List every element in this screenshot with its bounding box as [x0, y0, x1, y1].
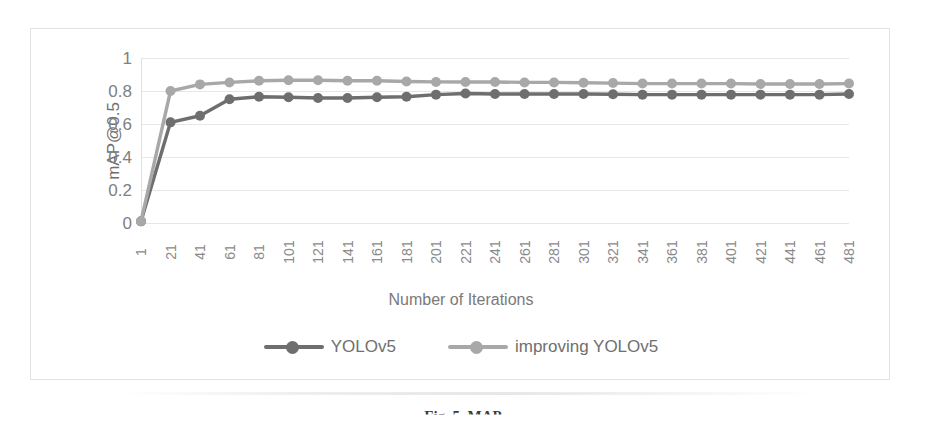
x-axis-title: Number of Iterations [31, 291, 891, 309]
figure-caption: Fig. 5. MAP [0, 408, 926, 429]
x-axis-tick-label: 21 [162, 227, 180, 287]
data-point-marker [520, 89, 530, 99]
x-axis-tick-label: 321 [604, 227, 622, 287]
data-point-marker [313, 75, 323, 85]
series-yolov5 [136, 88, 854, 226]
data-point-marker [225, 94, 235, 104]
y-axis-tick-label: 0.6 [108, 116, 132, 133]
y-axis-tick-label: 0.2 [108, 182, 132, 199]
data-point-marker [520, 77, 530, 87]
data-point-marker [284, 75, 294, 85]
gridline [141, 223, 849, 224]
x-axis-tick-label: 281 [545, 227, 563, 287]
x-axis-tick-label: 241 [486, 227, 504, 287]
chart-legend: YOLOv5improving YOLOv5 [31, 337, 891, 357]
data-point-marker [549, 89, 559, 99]
chart-canvas: mAP@0.5 00.20.40.60.81 12141618110112114… [31, 29, 891, 381]
x-axis-tick-label: 341 [634, 227, 652, 287]
legend-label: YOLOv5 [331, 337, 396, 357]
data-point-marker [815, 79, 825, 89]
chart-frame: mAP@0.5 00.20.40.60.81 12141618110112114… [30, 28, 890, 380]
legend-item[interactable]: improving YOLOv5 [448, 337, 658, 357]
x-axis-tick-label: 81 [250, 227, 268, 287]
data-point-marker [726, 90, 736, 100]
data-point-marker [756, 90, 766, 100]
figure-caption-text: Fig. 5. MAP [424, 408, 501, 425]
x-axis-tick-label: 301 [575, 227, 593, 287]
data-point-marker [284, 92, 294, 102]
data-point-marker [726, 79, 736, 89]
data-point-marker [372, 76, 382, 86]
legend-label: improving YOLOv5 [515, 337, 658, 357]
series-layer [141, 58, 849, 223]
data-point-marker [431, 90, 441, 100]
x-axis-ticks: 1214161811011211411611812012212412612813… [141, 227, 849, 289]
figure-container: mAP@0.5 00.20.40.60.81 12141618110112114… [0, 0, 926, 429]
data-point-marker [490, 89, 500, 99]
data-point-marker [815, 90, 825, 100]
data-point-marker [785, 79, 795, 89]
data-point-marker [195, 111, 205, 121]
data-point-marker [343, 93, 353, 103]
x-axis-tick-label: 421 [752, 227, 770, 287]
x-axis-tick-label: 161 [368, 227, 386, 287]
data-point-marker [195, 79, 205, 89]
x-axis-tick-label: 361 [663, 227, 681, 287]
legend-item[interactable]: YOLOv5 [264, 337, 396, 357]
data-point-marker [638, 90, 648, 100]
x-axis-tick-label: 261 [516, 227, 534, 287]
scan-artifact [120, 392, 820, 395]
data-point-marker [225, 77, 235, 87]
legend-swatch [448, 340, 508, 354]
data-point-marker [136, 216, 146, 226]
data-point-marker [844, 89, 854, 99]
data-point-marker [402, 92, 412, 102]
x-axis-tick-label: 401 [722, 227, 740, 287]
x-axis-tick-label: 41 [191, 227, 209, 287]
data-point-marker [461, 88, 471, 98]
data-point-marker [579, 89, 589, 99]
data-point-marker [313, 93, 323, 103]
data-point-marker [166, 117, 176, 127]
data-point-marker [166, 86, 176, 96]
series-line [141, 80, 849, 221]
plot-area: 00.20.40.60.81 [141, 58, 849, 223]
data-point-marker [549, 77, 559, 87]
data-point-marker [667, 79, 677, 89]
y-axis-tick-label: 0.8 [108, 83, 132, 100]
x-axis-tick-label: 461 [811, 227, 829, 287]
data-point-marker [254, 76, 264, 86]
data-point-marker [431, 77, 441, 87]
data-point-marker [638, 79, 648, 89]
data-point-marker [785, 90, 795, 100]
data-point-marker [372, 92, 382, 102]
x-axis-tick-label: 441 [781, 227, 799, 287]
data-point-marker [756, 79, 766, 89]
x-axis-tick-label: 61 [221, 227, 239, 287]
data-point-marker [402, 76, 412, 86]
y-axis-title-text: mAP@0.5 [104, 102, 124, 180]
x-axis-tick-label: 381 [693, 227, 711, 287]
x-axis-tick-label: 101 [280, 227, 298, 287]
data-point-marker [697, 90, 707, 100]
x-axis-tick-label: 181 [398, 227, 416, 287]
data-point-marker [254, 92, 264, 102]
x-axis-tick-label: 121 [309, 227, 327, 287]
data-point-marker [608, 89, 618, 99]
data-point-marker [608, 78, 618, 88]
series-line [141, 93, 849, 221]
data-point-marker [844, 79, 854, 89]
data-point-marker [490, 77, 500, 87]
legend-swatch [264, 340, 324, 354]
data-point-marker [697, 79, 707, 89]
data-point-marker [579, 78, 589, 88]
legend-marker-icon [470, 341, 483, 354]
y-axis-tick-label: 0.4 [108, 149, 132, 166]
data-point-marker [343, 76, 353, 86]
x-axis-tick-label: 141 [339, 227, 357, 287]
x-axis-tick-label: 481 [840, 227, 858, 287]
x-axis-tick-label: 1 [132, 227, 150, 287]
y-axis-tick-label: 1 [123, 50, 132, 67]
legend-marker-icon [286, 341, 299, 354]
x-axis-tick-label: 201 [427, 227, 445, 287]
